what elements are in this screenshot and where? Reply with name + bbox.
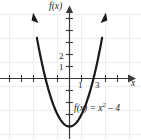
equation-prefix: f(x) = x [74,103,103,113]
y-tick-label-2: 2 [59,52,64,61]
graph-figure: f(x) x 2 1 1 3 f(x) = x2 – 4 [0,0,141,139]
x-tick-label-3: 3 [95,81,100,90]
y-tick-label-1: 1 [59,63,64,72]
y-axis [66,6,73,140]
function-equation-label: f(x) = x2 – 4 [74,104,120,114]
x-tick-label-1: 1 [78,81,83,90]
x-axis-label: x [131,79,135,89]
coordinate-plane-svg [0,0,141,139]
equation-suffix: – 4 [106,103,120,113]
x-axis [0,75,136,83]
y-axis-label: f(x) [49,2,62,12]
